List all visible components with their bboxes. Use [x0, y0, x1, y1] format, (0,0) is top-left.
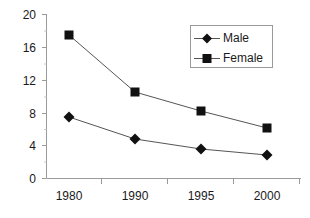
- x-axis-ticks: [102, 179, 300, 185]
- legend-marker-square-icon: [191, 48, 223, 68]
- x-tick-label-1990: 1990: [111, 190, 159, 202]
- y-tick-label-12: 12: [10, 75, 36, 87]
- y-tick-label-4: 4: [10, 140, 36, 152]
- y-tick-label-20: 20: [10, 9, 36, 21]
- legend-marker-diamond-icon: [191, 28, 223, 48]
- legend: Male Female: [190, 25, 273, 68]
- y-tick-label-16: 16: [10, 42, 36, 54]
- y-tick-label-0: 0: [10, 173, 36, 185]
- legend-label-female: Female: [223, 52, 263, 64]
- x-tick-label-1980: 1980: [45, 190, 93, 202]
- x-tick-label-1995: 1995: [177, 190, 225, 202]
- x-tick-label-2000: 2000: [243, 190, 291, 202]
- series-line-male: [69, 117, 267, 155]
- y-tick-label-8: 8: [10, 108, 36, 120]
- legend-label-male: Male: [223, 32, 249, 44]
- legend-item-male: Male: [191, 27, 272, 48]
- line-chart: 20 16 12 8 4 0 1980 1990 1995 2000 Male: [0, 0, 310, 218]
- legend-item-female: Female: [191, 47, 272, 68]
